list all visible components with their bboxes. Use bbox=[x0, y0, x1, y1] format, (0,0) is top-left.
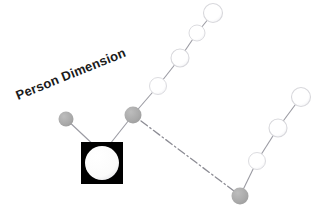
node-gray-bottom-right[interactable] bbox=[232, 188, 249, 205]
nodes-layer bbox=[59, 4, 311, 205]
diagram-svg: Person Dimension bbox=[0, 0, 326, 214]
node-light-up-3[interactable] bbox=[189, 25, 205, 41]
node-light-dr-2[interactable] bbox=[269, 119, 287, 137]
node-light-up-2[interactable] bbox=[171, 49, 189, 67]
edge-graycenter-graybottom bbox=[141, 121, 234, 191]
person-dimension-label: Person Dimension bbox=[14, 45, 128, 103]
node-gray-left[interactable] bbox=[59, 112, 74, 127]
node-root-square[interactable] bbox=[81, 142, 123, 184]
diagram-canvas: Person Dimension bbox=[0, 0, 326, 214]
diagram-label-group: Person Dimension bbox=[14, 45, 128, 103]
node-light-dr-1[interactable] bbox=[249, 153, 266, 170]
node-light-up-4[interactable] bbox=[204, 4, 223, 23]
node-light-dr-3[interactable] bbox=[292, 88, 311, 107]
node-light-up-1[interactable] bbox=[150, 78, 167, 95]
node-gray-center[interactable] bbox=[125, 107, 142, 124]
root-square-inner-circle bbox=[85, 146, 119, 180]
